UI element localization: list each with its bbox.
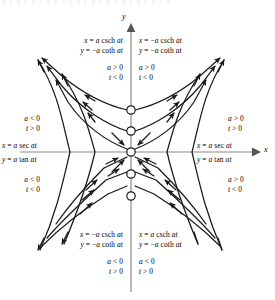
label-tl-eq2: y = −a coth at: [48, 46, 123, 56]
y-axis-arrowhead: [127, 23, 136, 32]
label-right-axis-eq2: y = a tan at: [197, 155, 232, 165]
open-circle-origin: [127, 148, 135, 156]
label-left-axis-eq2: y = a tan at: [2, 155, 37, 165]
y-axis-label: y: [122, 12, 126, 22]
label-right-axis-eq1: x = a sec at: [197, 141, 232, 151]
label-right-lower-cond2: t < 0: [228, 185, 242, 195]
label-left-upper-cond1: a < 0: [0, 114, 40, 124]
label-tl-eq1: x = a csch at: [48, 36, 123, 46]
arrow-lr-1: [170, 203, 182, 214]
open-circle-1: [127, 106, 135, 114]
label-left-lower-cond1: a < 0: [0, 175, 40, 185]
x-axis-label: x: [264, 145, 268, 155]
label-bl-eq1: x = −a csch at: [44, 230, 123, 240]
label-tr-eq2: y = −a coth at: [139, 46, 224, 56]
label-br-eq1: x = a csch at: [139, 230, 224, 240]
label-br-cond2: t > 0: [139, 267, 224, 277]
arrow-left-outer-up: [38, 60, 44, 72]
label-tl-cond1: a > 0: [48, 63, 123, 73]
open-circle-5: [127, 192, 135, 200]
label-tl-cond2: t < 0: [48, 73, 123, 83]
x-axis-arrowhead: [252, 148, 261, 157]
arrow-ur-2: [170, 102, 179, 110]
figure-canvas: y x x = a csch at y = −a coth at a > 0 t…: [0, 0, 275, 300]
arrow-lr-5: [144, 158, 156, 164]
label-right-upper-cond2: t > 0: [228, 124, 242, 134]
open-circle-2: [127, 127, 135, 135]
curve-left-branch-outer: [38, 60, 70, 250]
label-tr-eq1: x = −a csch at: [139, 36, 224, 46]
label-left-lower-cond2: t < 0: [0, 185, 40, 195]
label-bl-eq2: y = −a coth at: [44, 240, 123, 250]
label-left-upper-cond2: t > 0: [0, 124, 40, 134]
label-tr-cond2: t < 0: [139, 73, 224, 83]
label-br-cond1: a < 0: [139, 257, 224, 267]
label-tr-cond1: a > 0: [139, 63, 224, 73]
arrow-ll-5: [106, 158, 118, 164]
open-circle-4: [127, 170, 135, 178]
label-bl-cond1: a < 0: [44, 257, 123, 267]
label-right-lower-cond1: a > 0: [228, 175, 244, 185]
arrow-ul-2: [83, 102, 92, 110]
label-bl-cond2: t > 0: [44, 267, 123, 277]
label-right-upper-cond1: a > 0: [228, 114, 244, 124]
label-left-axis-eq1: x = a sec at: [2, 141, 37, 151]
arrow-ll-1: [80, 203, 92, 214]
phase-portrait-svg: [0, 0, 275, 300]
label-br-eq2: y = −a coth at: [139, 240, 224, 250]
